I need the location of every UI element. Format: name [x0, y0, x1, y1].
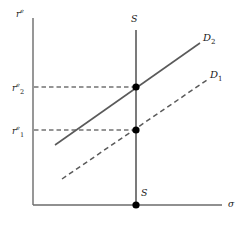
- y-axis-label: re: [16, 8, 24, 19]
- y-tick-r1-subscript: 1: [20, 131, 24, 139]
- demand-label-d2: D2: [203, 33, 216, 46]
- y-tick-label-r1: re1: [12, 125, 24, 138]
- demand-d2-subscript: 2: [211, 38, 215, 46]
- demand-d1-subscript: 1: [218, 75, 222, 83]
- y-tick-r2-subscript: 2: [20, 88, 24, 96]
- equilibrium-point-1: [132, 126, 139, 133]
- supply-label-top: S: [131, 14, 138, 24]
- demand-label-d1: D1: [210, 70, 223, 83]
- supply-label-bottom: S: [141, 188, 148, 198]
- equilibrium-point-2: [132, 83, 139, 90]
- x-axis-label: σ: [228, 200, 234, 209]
- demand-d2-base: D: [203, 32, 211, 43]
- y-tick-label-r2: re2: [12, 82, 24, 95]
- supply-x-intercept-point: [132, 201, 139, 208]
- demand-d1-base: D: [210, 69, 218, 80]
- supply-demand-figure: re σ re2 re1 S S D2 D1: [0, 0, 245, 230]
- y-axis-label-superscript: e: [20, 7, 24, 14]
